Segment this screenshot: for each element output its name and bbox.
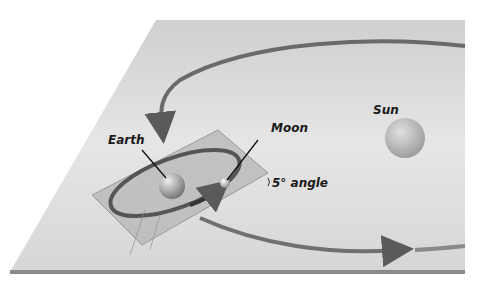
plane-edge [10,270,465,274]
angle-label: 5° angle [272,176,328,190]
sun-label: Sun [373,103,399,117]
moon [220,178,230,188]
moon-label: Moon [271,121,308,135]
sun [385,118,425,158]
earth-label: Earth [108,133,145,147]
earth [159,173,185,199]
orbit-diagram [0,0,477,284]
